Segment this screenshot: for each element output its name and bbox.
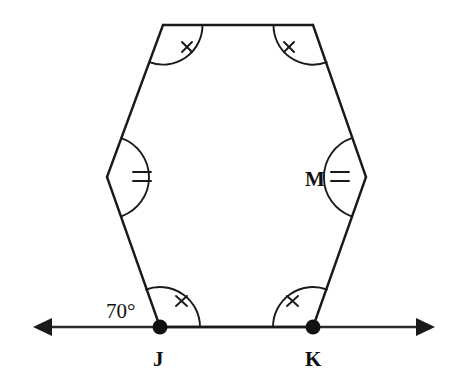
tick-single-top-right-icon xyxy=(284,42,294,52)
tick-single-top-left-icon xyxy=(182,42,192,52)
tick-single-vertex-k-icon xyxy=(287,296,298,306)
angle-arc-vertex-m xyxy=(324,138,352,216)
right-arrowhead-icon xyxy=(416,318,435,336)
angle-label-70-degrees: 70° xyxy=(106,299,135,323)
hexagon-outline-group xyxy=(107,25,366,327)
angle-arc-left-middle xyxy=(121,138,149,216)
vertex-dot-j xyxy=(153,320,168,335)
edge-upper-right xyxy=(313,25,366,177)
vertex-label-m: M xyxy=(305,167,325,191)
tick-single-vertex-j-icon xyxy=(176,296,187,306)
point-label-j: J xyxy=(153,347,164,371)
left-arrowhead-icon xyxy=(33,318,52,336)
angle-mark-top-left xyxy=(149,25,202,65)
tick-double-vertex-m-icon xyxy=(331,172,349,181)
edge-upper-left xyxy=(107,25,163,177)
geometry-diagram: 70° J K M xyxy=(0,0,459,375)
vertex-dot-k xyxy=(306,320,321,335)
angle-mark-vertex-m xyxy=(324,138,352,216)
edge-lower-right xyxy=(313,177,366,327)
angle-mark-left-middle xyxy=(121,138,151,216)
hexagon-figure-canvas: 70° J K M xyxy=(0,0,459,375)
angle-arc-top-left xyxy=(149,25,202,65)
point-label-k: K xyxy=(305,347,322,371)
